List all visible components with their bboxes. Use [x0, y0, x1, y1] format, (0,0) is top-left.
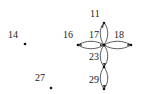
edge-17-18-a: [104, 41, 131, 45]
node-29: [103, 88, 106, 91]
node-17: [103, 44, 106, 47]
node-23: [103, 66, 106, 69]
node-label-27: 27: [35, 73, 45, 83]
node-label-14: 14: [8, 30, 18, 40]
graph-diagram: [0, 0, 141, 94]
node-14: [24, 43, 27, 46]
node-label-23: 23: [89, 52, 99, 62]
node-18: [130, 44, 133, 47]
node-label-11: 11: [90, 9, 100, 19]
node-label-16: 16: [63, 30, 73, 40]
node-16: [77, 44, 80, 47]
node-label-18: 18: [114, 30, 124, 40]
node-11: [103, 22, 106, 25]
edge-17-11-b: [104, 23, 108, 45]
edge-17-18-b: [104, 45, 131, 49]
node-27: [50, 87, 53, 90]
node-label-29: 29: [89, 75, 99, 85]
node-label-17: 17: [89, 30, 99, 40]
